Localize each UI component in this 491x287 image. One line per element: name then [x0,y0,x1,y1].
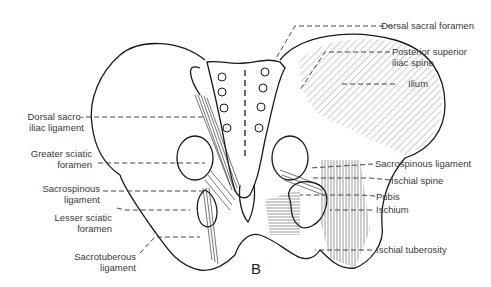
label-dorsal-sacral-foramen: Dorsal sacral foramen [381,20,474,31]
label-ischial-tuberosity: Ischial tuberosity [376,244,447,255]
label-line: Ischium [376,204,409,215]
label-line: Greater sciatic [22,148,92,159]
label-ischial-spine: Ischial spine [391,175,443,186]
label-line: Dorsal sacral foramen [381,20,474,31]
label-line: foramen [42,223,112,234]
label-line: ligament [30,194,100,205]
label-sacrospinous-ligament-left: Sacrospinous ligament [30,183,100,205]
label-ilium: Ilium [408,78,428,89]
label-posterior-superior-iliac-spine: Posterior superior iliac spine [392,46,467,68]
label-line: Ischial tuberosity [376,244,447,255]
label-line: foramen [22,159,92,170]
label-line: Sacrospinous [30,183,100,194]
label-ischium: Ischium [376,204,409,215]
label-line: Ilium [408,78,428,89]
label-line: Lesser sciatic [42,212,112,223]
label-line: Sacrospinous ligament [375,158,471,169]
label-line: Posterior superior [392,46,467,57]
label-sacrospinous-ligament-right: Sacrospinous ligament [375,158,471,169]
label-lesser-sciatic-foramen: Lesser sciatic foramen [42,212,112,234]
label-line: iliac spine [392,57,467,68]
label-sacrotuberous-ligament: Sacrotuberous ligament [64,251,136,273]
label-greater-sciatic-foramen: Greater sciatic foramen [22,148,92,170]
label-line: Pubis [376,191,400,202]
label-line: Ischial spine [391,175,443,186]
label-dorsal-sacroiliac-ligament: Dorsal sacro- iliac ligament [22,111,84,133]
label-line: ligament [64,262,136,273]
label-line: Sacrotuberous [64,251,136,262]
panel-letter: B [251,260,261,277]
label-line: Dorsal sacro- [22,111,84,122]
label-line: iliac ligament [22,122,84,133]
label-pubis: Pubis [376,191,400,202]
